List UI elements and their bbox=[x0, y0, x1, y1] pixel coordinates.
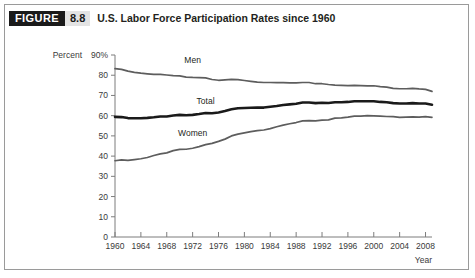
figure-container: FIGURE 8.8 U.S. Labor Force Participatio… bbox=[4, 4, 469, 270]
x-tick-label: 1968 bbox=[157, 241, 176, 251]
figure-badge-number: 8.8 bbox=[65, 11, 90, 26]
y-axis-title: Percent bbox=[53, 50, 83, 60]
series-line-men bbox=[115, 69, 432, 92]
series-label-total: Total bbox=[197, 96, 215, 106]
x-tick-label: 1996 bbox=[338, 241, 357, 251]
x-tick-label: 1992 bbox=[313, 241, 332, 251]
x-tick-label: 1976 bbox=[209, 241, 228, 251]
x-tick-label: 1984 bbox=[261, 241, 280, 251]
x-tick-label: 2004 bbox=[390, 241, 409, 251]
y-tick-label: 70 bbox=[99, 90, 109, 100]
x-tick-label: 1988 bbox=[287, 241, 306, 251]
series-label-men: Men bbox=[184, 55, 201, 65]
x-tick-label: 1964 bbox=[131, 241, 150, 251]
x-tick-label: 1972 bbox=[183, 241, 202, 251]
series-line-women bbox=[115, 116, 432, 161]
y-tick-label: 10 bbox=[99, 212, 109, 222]
y-tick-label: 30 bbox=[99, 171, 109, 181]
chart-area: 90%80706050403020100Percent1960196419681… bbox=[5, 31, 470, 269]
series-label-women: Women bbox=[178, 128, 207, 138]
x-axis-title: Year bbox=[415, 255, 432, 265]
y-tick-label: 20 bbox=[99, 192, 109, 202]
figure-title: U.S. Labor Force Participation Rates sin… bbox=[90, 11, 335, 26]
x-tick-label: 2000 bbox=[364, 241, 383, 251]
x-tick-label: 1980 bbox=[235, 241, 254, 251]
y-tick-label: 60 bbox=[99, 111, 109, 121]
figure-header: FIGURE 8.8 U.S. Labor Force Participatio… bbox=[9, 11, 335, 26]
x-tick-label: 1960 bbox=[106, 241, 125, 251]
x-tick-label: 2008 bbox=[416, 241, 435, 251]
line-chart: 90%80706050403020100Percent1960196419681… bbox=[5, 31, 470, 269]
y-tick-label: 50 bbox=[99, 131, 109, 141]
y-tick-label: 90% bbox=[91, 50, 108, 60]
y-tick-label: 40 bbox=[99, 151, 109, 161]
figure-badge-word: FIGURE bbox=[9, 11, 65, 26]
y-tick-label: 80 bbox=[99, 70, 109, 80]
